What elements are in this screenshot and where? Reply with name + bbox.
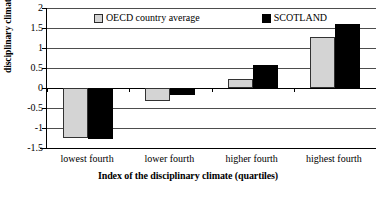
gridline (47, 8, 376, 9)
x-axis-tick (129, 88, 130, 92)
x-axis-category-label: lowest fourth (46, 152, 128, 165)
bar-scotland (170, 88, 195, 95)
x-axis-tick (294, 88, 295, 92)
x-axis-title: Index of the disciplinary climate (quart… (0, 170, 376, 182)
x-axis-tick (212, 88, 213, 92)
x-axis-category-labels: lowest fourthlower fourthhigher fourthhi… (46, 152, 375, 166)
y-axis-tick-label: -1 (13, 123, 43, 133)
bar-oecd (145, 88, 170, 101)
y-axis-tick-label: 2 (13, 3, 43, 13)
x-axis-tick (47, 88, 48, 92)
y-axis-tick-label: 1 (13, 43, 43, 53)
axis-bottom-rule (40, 148, 376, 149)
x-axis-category-label: highest fourth (293, 152, 375, 165)
bar-scotland (253, 65, 278, 88)
x-axis-category-label: lower fourth (128, 152, 210, 165)
bar-oecd (63, 88, 88, 138)
bar-oecd (310, 37, 335, 88)
plot-area (46, 8, 375, 148)
bar-oecd (228, 79, 253, 88)
bar-chart: disciplinary climate index 21.510.50-0.5… (0, 0, 376, 204)
y-axis-tick-label: 0.5 (13, 63, 43, 73)
bar-scotland (335, 24, 360, 88)
bar-scotland (88, 88, 113, 139)
y-axis-tick-label: 1.5 (13, 23, 43, 33)
y-axis-tick-label: -0.5 (13, 103, 43, 113)
y-axis-tick-label: 0 (13, 83, 43, 93)
gridline (47, 28, 376, 29)
y-axis-tick-label: -1.5 (13, 143, 43, 153)
x-axis-category-label: higher fourth (211, 152, 293, 165)
